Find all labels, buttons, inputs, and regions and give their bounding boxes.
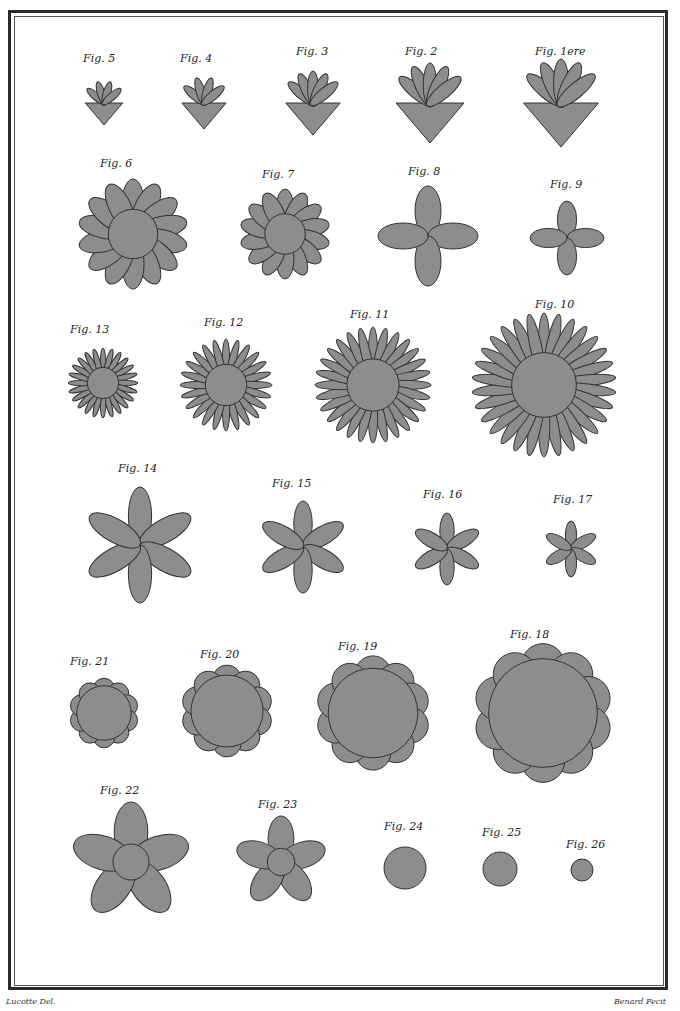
figure-label: Fig. 17 <box>553 493 592 506</box>
figure-label: Fig. 21 <box>70 655 109 668</box>
figure-round-icon <box>178 662 276 760</box>
figure-leaf-icon <box>277 67 349 139</box>
figure-flower-icon <box>236 185 334 283</box>
figure-label: Fig. 8 <box>408 165 440 178</box>
figure-label: Fig. 22 <box>100 784 139 797</box>
figure-label: Fig. 2 <box>405 45 437 58</box>
figure-star-icon <box>64 344 142 422</box>
figure-star-icon <box>468 309 620 461</box>
figure-label: Fig. 7 <box>262 168 294 181</box>
figure-label: Fig. 5 <box>83 52 115 65</box>
figure-star-icon <box>311 323 435 447</box>
figure-label: Fig. 25 <box>482 826 521 839</box>
figure-flower-icon <box>74 175 192 293</box>
figure-label: Fig. 9 <box>550 178 582 191</box>
figure-six-icon <box>407 509 487 589</box>
figure-six-icon <box>539 517 603 581</box>
figure-six-icon <box>253 497 353 597</box>
figure-label: Fig. 23 <box>258 798 297 811</box>
figure-label: Fig. 4 <box>180 52 212 65</box>
figure-label: Fig. 18 <box>510 628 549 641</box>
figure-label: Fig. 14 <box>118 462 157 475</box>
figure-label: Fig. 6 <box>100 157 132 170</box>
figure-label: Fig. 16 <box>423 488 462 501</box>
figure-cross-icon <box>374 182 482 290</box>
figure-leaf-icon <box>386 59 474 147</box>
credit-draftsman: Lucotte Del. <box>6 997 56 1006</box>
figure-disc-icon <box>380 843 430 893</box>
figure-label: Fig. 26 <box>566 838 605 851</box>
figure-disc-icon <box>567 855 597 885</box>
figure-leaf-icon <box>174 73 234 133</box>
figure-cross-icon <box>526 197 608 279</box>
figure-label: Fig. 19 <box>338 640 377 653</box>
figure-label: Fig. 11 <box>350 308 389 321</box>
figure-leaf-icon <box>513 55 609 151</box>
figure-round-icon <box>313 653 433 773</box>
figure-label: Fig. 12 <box>204 316 243 329</box>
figure-five-icon <box>231 812 331 912</box>
figure-five-icon <box>67 798 195 926</box>
figure-round-icon <box>471 641 615 785</box>
figure-label: Fig. 15 <box>272 477 311 490</box>
figure-leaf-icon <box>78 77 130 129</box>
figure-label: Fig. 3 <box>296 45 328 58</box>
figure-disc-icon <box>479 848 521 890</box>
figure-round-icon <box>66 675 142 751</box>
figure-six-icon <box>78 483 202 607</box>
credit-engraver: Benard Fecit <box>614 997 666 1006</box>
figure-label: Fig. 13 <box>70 323 109 336</box>
figure-star-icon <box>176 335 276 435</box>
figure-label: Fig. 20 <box>200 648 239 661</box>
figure-label: Fig. 24 <box>384 820 423 833</box>
